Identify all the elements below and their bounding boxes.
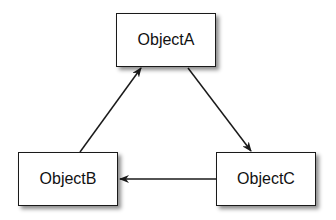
node-label: ObjectA xyxy=(138,31,195,49)
node-object-b: ObjectB xyxy=(18,152,118,206)
node-object-c: ObjectC xyxy=(216,152,316,206)
edge-b-to-a xyxy=(80,68,141,152)
edge-a-to-c xyxy=(188,68,251,151)
node-object-a: ObjectA xyxy=(116,13,216,67)
node-label: ObjectB xyxy=(40,170,97,188)
node-label: ObjectC xyxy=(237,170,295,188)
